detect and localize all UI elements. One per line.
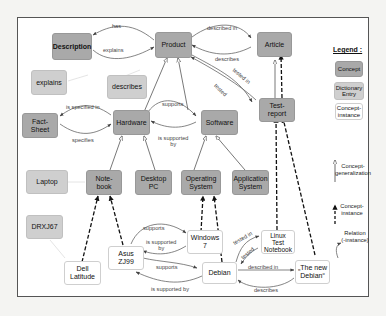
edge-label-inst-supports-2: supports	[156, 264, 177, 270]
instance-the-new-debian[interactable]: „The new Debian“	[295, 260, 330, 284]
concept-software[interactable]: Software	[201, 110, 238, 135]
concept-article[interactable]: Article	[257, 32, 292, 57]
legend-concept-instance-box: Concept- instance	[335, 103, 363, 120]
concept-desktop-pc[interactable]: Desktop PC	[135, 170, 172, 195]
concept-notebook[interactable]: Note- book	[86, 170, 122, 195]
instance-dell-latitude[interactable]: Dell Latitude	[64, 261, 101, 285]
edge-label-has: has	[112, 23, 121, 29]
instance-debian[interactable]: Debian	[202, 262, 237, 284]
concept-operating-system[interactable]: Operating System	[181, 170, 221, 195]
edge-label-is-specified-in: is specified in	[66, 104, 100, 110]
dict-explains[interactable]: explains	[31, 70, 67, 95]
dict-drxj67[interactable]: DRXJ67	[26, 215, 63, 239]
edge-label-describes: describes	[215, 56, 239, 62]
edge-label-supports: supports	[162, 101, 183, 107]
edge-label-inst-is-supported-by-1: is supported by	[146, 239, 176, 251]
concept-product[interactable]: Product	[155, 32, 192, 58]
legend-concept-generalization: Concept- generalization	[333, 163, 373, 176]
instance-windows7[interactable]: Windows 7	[187, 230, 223, 254]
edge-label-inst-described-in: described in	[248, 264, 278, 270]
concept-description[interactable]: Description	[52, 33, 92, 60]
edge-label-is-supported-by: is supported by	[158, 135, 188, 147]
instance-asus-zj99[interactable]: Asus ZJ99	[108, 246, 144, 270]
legend-concept-instance-arrow: Concept- instance	[337, 203, 367, 216]
edge-label-inst-describes: describes	[254, 287, 278, 293]
legend-dictionary-entry: Dictionary Entry	[334, 82, 364, 100]
edge-label-inst-is-supported-by-2: is supported by	[151, 286, 189, 292]
edge-label-inst-supports-1: supports	[143, 225, 164, 231]
concept-fact-sheet[interactable]: Fact- Sheet	[22, 113, 58, 138]
legend-concept: Concept	[335, 61, 363, 77]
concept-hardware[interactable]: Hardware	[113, 110, 150, 135]
edge-label-explains: explains	[103, 47, 124, 53]
edge-label-described-in: described in	[207, 25, 237, 31]
concept-test-report[interactable]: Test- report	[259, 98, 295, 122]
instance-linux-test-notebook[interactable]: Linux Test Notebook	[261, 230, 295, 254]
edge-label-specifies: specifies	[72, 137, 94, 143]
dict-describes[interactable]: describes	[107, 75, 147, 99]
dict-laptop[interactable]: Laptop	[26, 170, 68, 194]
legend-title: Legend :	[333, 46, 362, 53]
legend-relation: Relation (-instance)	[340, 230, 370, 243]
concept-application-system[interactable]: Application System	[232, 170, 269, 195]
